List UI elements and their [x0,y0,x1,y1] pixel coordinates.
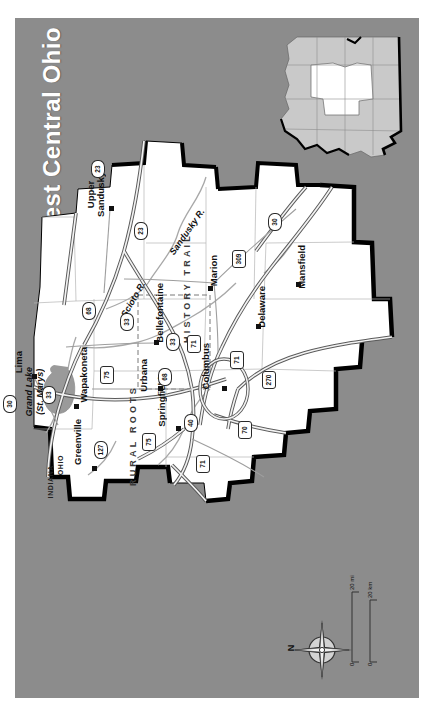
scale-bar: 20 mi 20 km 0 0 [340,586,400,668]
route-shield-23-marion: 23 [134,222,148,240]
route-shield-68-urbana: 68 [158,368,172,386]
route-shield-40-springfield: 40 [184,414,198,432]
city-dot-upper-sandusky [109,206,114,211]
compass-north-label: N [286,645,296,652]
city-dot-wapakoneta [74,404,79,409]
route-shield-30-lima: 30 [3,395,17,413]
city-label-columbus: Columbus [201,343,211,389]
route-shield-33-columbus: 33 [166,333,180,351]
city-label-mansfield: Mansfield [297,245,307,289]
city-label-marion: Marion [209,255,219,286]
city-label-lima: Lima [14,351,24,373]
route-shield-23-northwest: 23 [91,160,105,178]
route-shield-71-north: 71 [187,335,201,353]
city-label-urbana: Urbana [139,359,149,392]
inset-locator-map [262,14,412,174]
route-shield-30-mansfield: 30 [268,213,282,231]
route-shield-33-stmarys: 33 [42,386,56,404]
route-shield-71-columbus: 71 [230,351,244,369]
compass-center [319,647,324,652]
city-label-bellefontaine: Bellefontaine [155,283,165,343]
map-figure: West Central Ohio [0,0,432,715]
route-shield-127-greenville: 127 [94,441,108,459]
city-dot-columbus [222,386,227,391]
region-boundary-heavy-southwest [182,143,216,167]
state-label-indiana: INDIANA [47,465,54,498]
route-shield-309-marion: 309 [232,250,246,268]
state-label-ohio: OHIO [57,455,64,475]
scale-miles-label: 20 mi [349,575,355,590]
route-shield-33-bellefontaine: 33 [120,313,134,331]
route-shield-270-columbus: 270 [262,371,276,389]
city-label-wapakoneta: Wapakoneta [79,347,89,403]
scale-bar-lines [352,592,377,662]
city-label-upper-sandusky: UpperSandusky [86,172,106,217]
route-shield-75-wapakoneta: 75 [142,433,156,451]
route-shield-71-south: 71 [196,455,210,473]
corridor-label-rural-roots: RURAL ROOTS [128,385,138,486]
region-boundary-heavy-northwest [216,167,218,189]
city-label-upper-sandusky-line2: Sandusky [96,172,106,217]
corridor-label-history-trail: HISTORY TRAIL [182,233,192,343]
scale-km-label: 20 km [367,582,373,598]
route-shield-75-lima: 75 [100,366,114,384]
route-shield-70-columbus: 70 [238,421,252,439]
city-dot-greenville [92,466,97,471]
city-dot-springfield [176,426,181,431]
scale-zero-miles: 0 [349,663,355,666]
scale-zero-km: 0 [367,663,373,666]
city-dot-marion [208,286,213,291]
lake-label-line1: Grand Lake [24,367,35,417]
city-label-delaware: Delaware [257,286,267,328]
route-shield-68-northwest: 68 [82,302,96,320]
city-label-greenville: Greenville [73,419,83,465]
